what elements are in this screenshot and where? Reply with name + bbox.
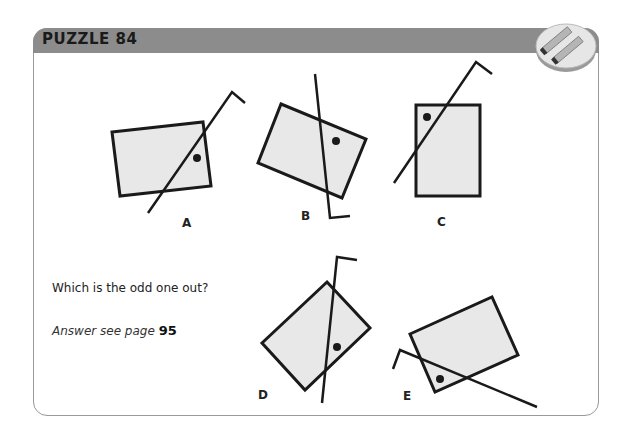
figure-b: B: [258, 74, 366, 223]
figure-label-e: E: [403, 389, 411, 403]
puzzle-figures: A B C D E: [0, 0, 632, 435]
figure-label-a: A: [182, 216, 192, 230]
answer-hint: Answer see page: [52, 324, 155, 338]
figure-d: D: [258, 257, 370, 403]
figure-label-c: C: [437, 215, 446, 229]
figure-e: E: [393, 297, 537, 407]
figure-label-b: B: [301, 209, 310, 223]
figure-c: C: [394, 62, 492, 229]
question-text: Which is the odd one out?: [52, 281, 208, 295]
answer-page-number: 95: [159, 323, 177, 338]
figure-a: A: [112, 92, 245, 230]
figure-label-d: D: [258, 388, 268, 402]
answer-reference: Answer see page 95: [52, 323, 177, 338]
